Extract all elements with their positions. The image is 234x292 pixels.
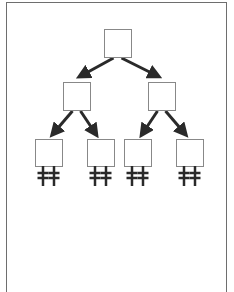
- double-cross-icon: [127, 166, 149, 186]
- arrow-icon: [55, 111, 73, 132]
- tree-node-leaf-3: [125, 140, 152, 167]
- arrow-icon: [144, 111, 158, 132]
- arrow-icon: [83, 58, 114, 75]
- tree-node-leaf-2: [88, 140, 115, 167]
- arrow-icon: [122, 58, 156, 75]
- tree-node-left: [64, 83, 91, 111]
- arrow-icon: [81, 111, 95, 132]
- double-cross-icon: [90, 166, 112, 186]
- tree-node-leaf-1: [36, 140, 63, 167]
- arrow-icon: [166, 111, 184, 132]
- double-cross-icon: [179, 166, 201, 186]
- tree-node-right: [149, 83, 176, 111]
- tree-node-root: [105, 30, 132, 58]
- tree-node-leaf-4: [177, 140, 204, 167]
- double-cross-icon: [38, 166, 60, 186]
